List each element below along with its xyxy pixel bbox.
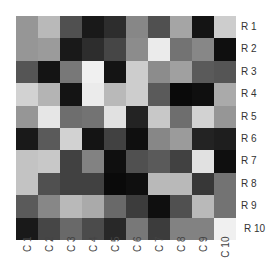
heatmap-cell bbox=[60, 106, 82, 128]
heatmap-cell bbox=[38, 38, 60, 60]
heatmap-cell bbox=[82, 83, 104, 105]
heatmap-cell bbox=[60, 173, 82, 195]
heatmap-cell bbox=[148, 128, 170, 150]
heatmap-cell bbox=[38, 106, 60, 128]
heatmap-cell bbox=[126, 38, 148, 60]
heatmap-cell bbox=[38, 83, 60, 105]
heatmap-cell bbox=[82, 195, 104, 217]
row-label: R 5 bbox=[241, 111, 257, 123]
heatmap-cell bbox=[16, 16, 38, 38]
heatmap-cell bbox=[214, 195, 236, 217]
row-label: R 2 bbox=[241, 43, 257, 55]
heatmap-cell bbox=[16, 173, 38, 195]
heatmap-cell bbox=[148, 38, 170, 60]
heatmap-cell bbox=[192, 195, 214, 217]
heatmap-cell bbox=[170, 38, 192, 60]
heatmap-cell bbox=[126, 173, 148, 195]
heatmap-cell bbox=[192, 16, 214, 38]
heatmap-cell bbox=[104, 173, 126, 195]
heatmap-cell bbox=[82, 173, 104, 195]
heatmap-grid bbox=[16, 16, 236, 240]
heatmap-cell bbox=[148, 106, 170, 128]
heatmap-cell bbox=[214, 173, 236, 195]
heatmap-cell bbox=[104, 61, 126, 83]
heatmap-cell bbox=[214, 61, 236, 83]
heatmap-cell bbox=[38, 173, 60, 195]
heatmap-cell bbox=[214, 106, 236, 128]
heatmap-cell bbox=[104, 106, 126, 128]
heatmap-cell bbox=[60, 38, 82, 60]
heatmap-cell bbox=[192, 106, 214, 128]
column-label: C 1 bbox=[22, 237, 33, 267]
heatmap-cell bbox=[16, 38, 38, 60]
heatmap-cell bbox=[126, 106, 148, 128]
column-label: C 9 bbox=[198, 237, 209, 267]
heatmap-cell bbox=[16, 83, 38, 105]
heatmap-cell bbox=[126, 61, 148, 83]
heatmap-cell bbox=[82, 150, 104, 172]
heatmap-cell bbox=[214, 128, 236, 150]
heatmap-cell bbox=[38, 150, 60, 172]
heatmap-cell bbox=[170, 173, 192, 195]
heatmap-cell bbox=[148, 173, 170, 195]
column-label: C 2 bbox=[44, 237, 55, 267]
heatmap-cell bbox=[16, 106, 38, 128]
heatmap-cell bbox=[104, 16, 126, 38]
heatmap-cell bbox=[170, 195, 192, 217]
column-label: C 10 bbox=[220, 237, 231, 267]
heatmap-cell bbox=[104, 83, 126, 105]
row-label: R 3 bbox=[241, 66, 257, 78]
heatmap-cell bbox=[16, 61, 38, 83]
heatmap-cell bbox=[170, 61, 192, 83]
column-label: C 3 bbox=[66, 237, 77, 267]
heatmap-cell bbox=[170, 83, 192, 105]
heatmap-cell bbox=[16, 128, 38, 150]
heatmap-cell bbox=[16, 195, 38, 217]
heatmap-cell bbox=[38, 195, 60, 217]
row-label: R 1 bbox=[241, 21, 257, 33]
heatmap-cell bbox=[60, 128, 82, 150]
heatmap-cell bbox=[104, 195, 126, 217]
row-label: R 6 bbox=[241, 133, 257, 145]
column-label: C 5 bbox=[110, 237, 121, 267]
row-label: R 9 bbox=[241, 200, 257, 212]
row-label: R 8 bbox=[241, 178, 257, 190]
heatmap-cell bbox=[214, 16, 236, 38]
column-label: C 4 bbox=[88, 237, 99, 267]
heatmap-cell bbox=[214, 150, 236, 172]
heatmap-cell bbox=[82, 38, 104, 60]
heatmap-cell bbox=[192, 61, 214, 83]
heatmap-cell bbox=[16, 150, 38, 172]
heatmap-cell bbox=[126, 83, 148, 105]
heatmap-cell bbox=[192, 83, 214, 105]
heatmap-cell bbox=[60, 16, 82, 38]
heatmap-cell bbox=[82, 61, 104, 83]
heatmap-cell bbox=[126, 16, 148, 38]
heatmap-cell bbox=[170, 128, 192, 150]
heatmap-cell bbox=[60, 150, 82, 172]
heatmap-cell bbox=[126, 128, 148, 150]
heatmap-cell bbox=[82, 128, 104, 150]
heatmap-cell bbox=[170, 150, 192, 172]
heatmap-cell bbox=[192, 128, 214, 150]
heatmap-cell bbox=[148, 150, 170, 172]
column-label: C 7 bbox=[154, 237, 165, 267]
row-label: R 4 bbox=[241, 88, 257, 100]
heatmap-cell bbox=[148, 61, 170, 83]
heatmap-cell bbox=[214, 83, 236, 105]
column-label: C 8 bbox=[176, 237, 187, 267]
heatmap-cell bbox=[38, 16, 60, 38]
heatmap-cell bbox=[148, 195, 170, 217]
heatmap-cell bbox=[170, 106, 192, 128]
heatmap-cell bbox=[104, 38, 126, 60]
column-label: C 6 bbox=[132, 237, 143, 267]
heatmap-cell bbox=[148, 16, 170, 38]
heatmap-cell bbox=[60, 195, 82, 217]
heatmap-cell bbox=[148, 83, 170, 105]
heatmap-cell bbox=[104, 128, 126, 150]
heatmap-cell bbox=[170, 16, 192, 38]
heatmap-cell bbox=[82, 106, 104, 128]
heatmap-cell bbox=[38, 128, 60, 150]
row-label: R 10 bbox=[244, 223, 265, 235]
heatmap-cell bbox=[60, 61, 82, 83]
